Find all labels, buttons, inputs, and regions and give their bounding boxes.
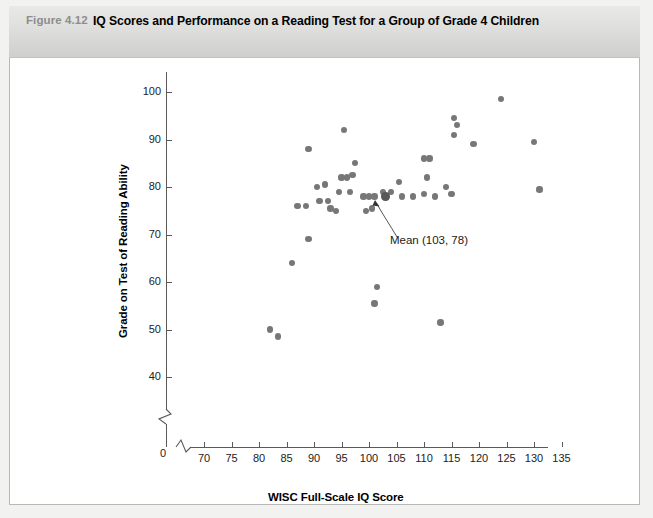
y-tick bbox=[167, 282, 172, 283]
data-point bbox=[426, 155, 432, 161]
y-axis-stub bbox=[166, 424, 167, 447]
data-point bbox=[396, 179, 402, 185]
x-tick bbox=[287, 442, 288, 447]
y-axis-break-symbol bbox=[159, 409, 171, 424]
x-tick-label: 125 bbox=[492, 452, 522, 464]
x-axis-label: WISC Full-Scale IQ Score bbox=[268, 491, 404, 503]
data-point bbox=[536, 186, 542, 192]
data-point bbox=[322, 181, 328, 187]
mean-data-point bbox=[381, 192, 389, 200]
data-point bbox=[424, 174, 430, 180]
data-point bbox=[448, 191, 454, 197]
x-axis-break-symbol bbox=[176, 440, 191, 452]
x-tick bbox=[314, 442, 315, 447]
y-axis-line bbox=[166, 72, 167, 409]
data-point bbox=[303, 203, 309, 209]
x-tick bbox=[369, 442, 370, 447]
data-point bbox=[333, 208, 339, 214]
y-tick-label: 80 bbox=[133, 180, 161, 192]
scatter-plot: Grade on Test of Reading Ability WISC Fu… bbox=[0, 0, 653, 518]
x-tick-label: 90 bbox=[299, 452, 329, 464]
x-tick bbox=[397, 442, 398, 447]
annotation-overlay bbox=[0, 0, 653, 518]
x-tick bbox=[452, 442, 453, 447]
data-point bbox=[325, 198, 331, 204]
data-point bbox=[470, 141, 476, 147]
x-tick bbox=[342, 442, 343, 447]
data-point bbox=[314, 184, 320, 190]
data-point bbox=[498, 96, 504, 102]
x-tick bbox=[562, 442, 563, 447]
data-point bbox=[275, 333, 281, 339]
data-point bbox=[399, 193, 405, 199]
x-tick bbox=[259, 442, 260, 447]
y-tick bbox=[167, 92, 172, 93]
x-tick-label: 70 bbox=[189, 452, 219, 464]
x-tick-label: 100 bbox=[354, 452, 384, 464]
data-point bbox=[443, 184, 449, 190]
data-point bbox=[531, 139, 537, 145]
x-tick-label: 130 bbox=[519, 452, 549, 464]
data-point bbox=[267, 326, 273, 332]
data-point bbox=[294, 203, 300, 209]
data-point bbox=[352, 160, 358, 166]
data-point bbox=[432, 193, 438, 199]
y-tick bbox=[167, 140, 172, 141]
y-tick-label: 70 bbox=[133, 228, 161, 240]
mean-annotation-label: Mean (103, 78) bbox=[390, 234, 468, 246]
y-tick bbox=[167, 377, 172, 378]
y-tick-label: 60 bbox=[133, 275, 161, 287]
data-point bbox=[341, 127, 347, 133]
y-tick-label: 90 bbox=[133, 133, 161, 145]
data-point bbox=[289, 260, 295, 266]
x-tick bbox=[507, 442, 508, 447]
x-tick-label: 95 bbox=[327, 452, 357, 464]
data-point bbox=[349, 172, 355, 178]
x-tick-label: 110 bbox=[409, 452, 439, 464]
data-point bbox=[347, 189, 353, 195]
x-tick-label: 85 bbox=[272, 452, 302, 464]
y-tick bbox=[167, 330, 172, 331]
origin-label: 0 bbox=[160, 447, 166, 459]
data-point bbox=[336, 189, 342, 195]
x-tick bbox=[534, 442, 535, 447]
data-point bbox=[451, 115, 457, 121]
page-background: Figure 4.12 IQ Scores and Performance on… bbox=[0, 0, 653, 518]
data-point bbox=[305, 146, 311, 152]
data-point bbox=[371, 300, 377, 306]
x-tick-label: 115 bbox=[437, 452, 467, 464]
data-point bbox=[374, 284, 380, 290]
y-tick-label: 100 bbox=[133, 85, 161, 97]
x-tick-label: 120 bbox=[464, 452, 494, 464]
x-tick-label: 75 bbox=[217, 452, 247, 464]
y-axis-label: Grade on Test of Reading Ability bbox=[117, 164, 129, 338]
x-axis-line bbox=[191, 447, 548, 448]
x-tick bbox=[232, 442, 233, 447]
x-tick bbox=[479, 442, 480, 447]
x-tick bbox=[424, 442, 425, 447]
data-point bbox=[451, 132, 457, 138]
data-point bbox=[369, 205, 375, 211]
x-tick-label: 80 bbox=[244, 452, 274, 464]
data-point bbox=[421, 191, 427, 197]
y-tick-label: 40 bbox=[133, 370, 161, 382]
y-tick bbox=[167, 187, 172, 188]
x-tick-label: 135 bbox=[547, 452, 577, 464]
data-point bbox=[454, 122, 460, 128]
y-tick-label: 50 bbox=[133, 323, 161, 335]
data-point bbox=[371, 193, 377, 199]
annotation-leader-line bbox=[377, 204, 397, 237]
data-point bbox=[316, 198, 322, 204]
y-tick bbox=[167, 235, 172, 236]
data-point bbox=[305, 236, 311, 242]
x-tick-label: 105 bbox=[382, 452, 412, 464]
data-point bbox=[410, 193, 416, 199]
data-point bbox=[437, 319, 443, 325]
x-tick bbox=[204, 442, 205, 447]
